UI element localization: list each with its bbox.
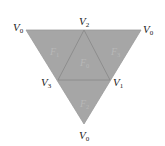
vertex-label-v2-top: V2 — [79, 15, 90, 29]
vertex-label-v0-top-right: V0 — [143, 23, 154, 37]
vertex-label-v0-top-left: V0 — [13, 21, 24, 35]
vertex-label-v3: V3 — [41, 76, 52, 90]
vertex-label-v1: V1 — [113, 76, 124, 90]
tetrahedron-net-diagram: F1 F0 F3 F2 V0 V2 V0 V3 V1 V0 — [0, 0, 165, 146]
vertex-label-v0-bottom: V0 — [79, 129, 90, 143]
